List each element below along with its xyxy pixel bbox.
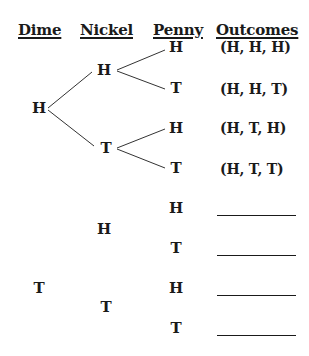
header-outcomes: Outcomes	[216, 21, 298, 39]
penny-node-5: H	[169, 201, 183, 216]
nickel-node-ht: T	[100, 141, 111, 156]
nickel-node-tt: T	[100, 300, 111, 315]
edge-nickel-h-to-penny-t	[117, 71, 165, 89]
outcome-2: (H, H, T)	[220, 82, 288, 97]
outcome-blank-5[interactable]	[217, 215, 296, 216]
penny-node-4: T	[170, 161, 181, 176]
penny-node-2: T	[170, 81, 181, 96]
edge-dime-h-to-nickel-h	[48, 72, 92, 108]
header-penny: Penny	[153, 21, 203, 39]
penny-node-3: H	[169, 121, 183, 136]
header-nickel: Nickel	[80, 21, 133, 39]
edge-dime-h-to-nickel-t	[48, 110, 94, 146]
header-dime: Dime	[18, 21, 61, 39]
penny-node-7: H	[169, 281, 183, 296]
penny-node-1: H	[169, 40, 183, 55]
outcome-blank-7[interactable]	[217, 295, 296, 296]
edge-nickel-t-to-penny-h	[117, 129, 165, 148]
edge-nickel-t-to-penny-t	[117, 149, 165, 168]
nickel-node-hh: H	[97, 63, 111, 78]
outcome-1: (H, H, H)	[220, 40, 291, 55]
outcome-4: (H, T, T)	[220, 162, 283, 177]
outcome-3: (H, T, H)	[220, 121, 286, 136]
penny-node-6: T	[170, 241, 181, 256]
dime-node-t: T	[33, 281, 44, 296]
edge-nickel-h-to-penny-h	[117, 50, 165, 70]
outcome-blank-8[interactable]	[217, 335, 296, 336]
penny-node-8: T	[170, 321, 181, 336]
nickel-node-th: H	[97, 222, 111, 237]
dime-node-h: H	[32, 101, 46, 116]
outcome-blank-6[interactable]	[217, 255, 296, 256]
